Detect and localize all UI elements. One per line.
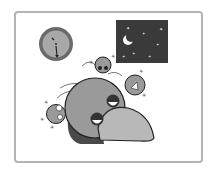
worry-creature-right: ✳ ✳ — [125, 68, 146, 98]
bird-eye-right — [107, 95, 120, 108]
svg-text:✳: ✳ — [50, 124, 54, 130]
wall-clock-icon — [39, 27, 73, 61]
illustration: ✦ ✦ ✦ ✦ ✦ ✦ ✦ — [0, 0, 212, 171]
svg-text:✳: ✳ — [142, 92, 146, 98]
svg-text:✦: ✦ — [126, 25, 130, 31]
bird-eye-left — [91, 113, 104, 126]
svg-text:✳: ✳ — [89, 59, 93, 65]
night-window: ✦ ✦ ✦ ✦ ✦ ✦ ✦ — [116, 20, 168, 63]
worry-creature-left: ✳ ✳ ✳ — [40, 99, 66, 130]
svg-text:✳: ✳ — [40, 116, 44, 122]
svg-text:✳: ✳ — [139, 68, 143, 74]
worry-creature-top: ✳ ✳ — [89, 53, 115, 73]
svg-text:✦: ✦ — [159, 26, 163, 32]
svg-text:✳: ✳ — [44, 99, 48, 105]
svg-text:✳: ✳ — [111, 53, 115, 59]
